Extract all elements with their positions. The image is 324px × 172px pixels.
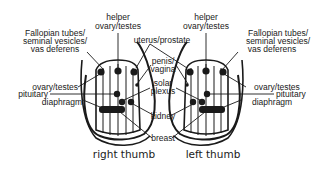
label-vagina: vagina (150, 64, 175, 74)
caption-right-thumb: right thumb (93, 148, 156, 160)
thumb-diagram: helper ovary/testes Fallopian tubes/ sem… (0, 0, 324, 172)
label-helper-sub: ovary/testes (95, 21, 141, 31)
label-fallopian-3: vas deferens (31, 44, 80, 54)
label-diaphragm-left: diaphragm (252, 97, 292, 107)
label-diaphragm-right: diaphragm (42, 97, 82, 107)
label-uterus: uterus/prostate (134, 35, 191, 45)
label-kidney: kidney (151, 111, 176, 121)
label-plexus: plexus (151, 86, 176, 96)
label-helper-sub-left: ovary/testes (183, 21, 229, 31)
caption-left-thumb: left thumb (186, 148, 241, 160)
label-fallopian-3-left: vas deferens (248, 44, 297, 54)
label-breast: breast (151, 133, 175, 143)
